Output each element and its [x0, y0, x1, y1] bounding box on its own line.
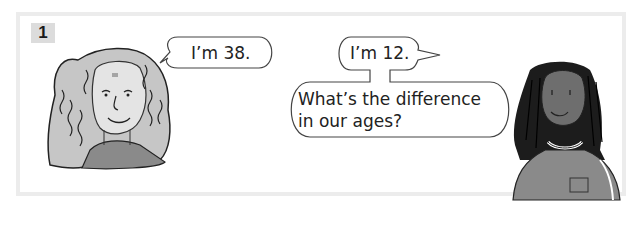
girl-illustration	[513, 62, 620, 200]
question-line-2: in our ages?	[298, 111, 402, 131]
question-line-1: What’s the difference	[298, 89, 481, 109]
speech-woman-text: I’m 38.	[191, 43, 250, 63]
speech-girl-text: I’m 12.	[350, 43, 409, 63]
woman-illustration	[48, 48, 170, 168]
